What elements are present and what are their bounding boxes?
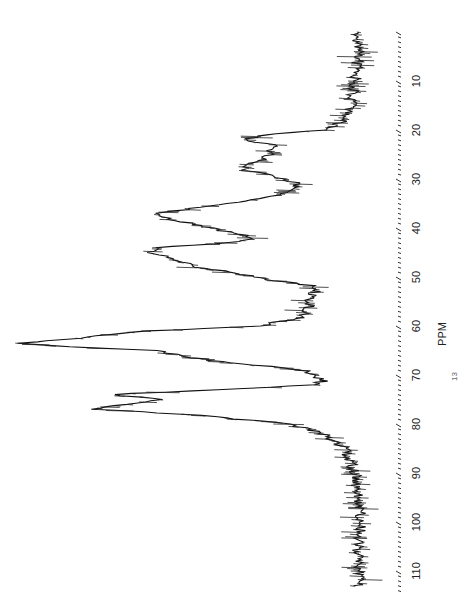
tick-label-100: 100	[410, 513, 422, 531]
tick-label-60: 60	[410, 320, 422, 332]
tick-label-90: 90	[410, 467, 422, 479]
tick-label-10: 10	[410, 75, 422, 87]
axis-title: PPM	[436, 322, 448, 346]
tick-label-110: 110	[410, 562, 422, 580]
annotation-mark: 13	[450, 372, 459, 381]
tick-label-70: 70	[410, 369, 422, 381]
tick-label-80: 80	[410, 418, 422, 430]
ppm-axis	[396, 32, 401, 592]
tick-label-50: 50	[410, 271, 422, 283]
spectrum-noise	[15, 32, 382, 586]
tick-label-30: 30	[410, 173, 422, 185]
spectrum-trace	[18, 32, 366, 586]
tick-label-40: 40	[410, 222, 422, 234]
tick-label-20: 20	[410, 124, 422, 136]
